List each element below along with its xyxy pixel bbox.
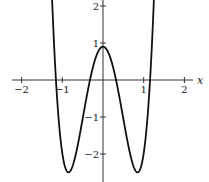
y-tick-label: 1: [93, 38, 99, 49]
y-tick-label: 2: [93, 1, 99, 12]
x-tick-label: 1: [141, 84, 147, 95]
chart: −2−112 21−1−2 x: [0, 0, 209, 182]
x-axis-label: x: [197, 74, 204, 87]
y-tick-label: −1: [84, 112, 99, 123]
x-tick-label: −2: [14, 84, 29, 95]
y-tick-label: −2: [84, 149, 99, 160]
x-tick-label: 2: [181, 84, 187, 95]
